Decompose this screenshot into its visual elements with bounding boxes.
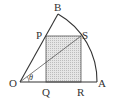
label-theta: θ — [29, 73, 33, 82]
label-p: P — [36, 29, 42, 41]
sector-diagram: B P S O Q R A θ — [0, 0, 113, 104]
rectangle-pqrs — [46, 36, 81, 82]
label-s: S — [82, 29, 88, 41]
label-a: A — [98, 77, 106, 89]
label-q: Q — [42, 86, 50, 98]
label-b: B — [54, 1, 61, 13]
label-r: R — [77, 86, 85, 98]
label-o: O — [9, 77, 17, 89]
